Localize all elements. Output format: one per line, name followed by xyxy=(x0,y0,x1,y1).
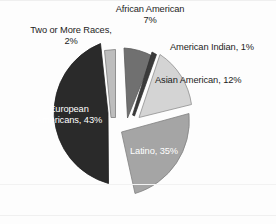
pie-label-american-indian: American Indian, 1% xyxy=(170,42,254,53)
pie-label-african-american-value: 7% xyxy=(143,15,156,25)
pie-label-two-or-more-races-value: 2% xyxy=(64,36,77,46)
pie-label-two-or-more-races-text: Two or More Races, xyxy=(30,25,111,35)
pie-label-european-americans: European Americans, 43% xyxy=(22,104,116,126)
pie-label-two-or-more-races: Two or More Races, 2% xyxy=(12,25,130,47)
pie-chart-figure: Two or More Races, 2% African American 7… xyxy=(0,0,276,224)
pie-label-european-americans-value: Americans, 43% xyxy=(36,115,102,125)
pie-label-asian-american: Asian American, 12% xyxy=(155,75,241,86)
pie-label-african-american-text: African American xyxy=(116,4,185,14)
pie-label-african-american: African American 7% xyxy=(98,4,202,26)
pie-label-european-americans-text: European xyxy=(49,104,89,114)
pie-label-latino: Latino, 35% xyxy=(130,146,178,157)
